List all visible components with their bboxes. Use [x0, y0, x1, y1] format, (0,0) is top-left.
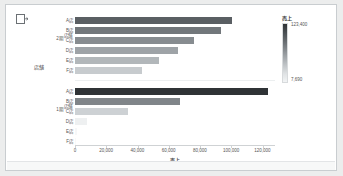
bar-top-0[interactable] — [75, 17, 232, 24]
cat-label-bottom-4: E店 — [60, 128, 73, 135]
cat-label-top-3: D店 — [60, 47, 73, 54]
legend-color-ramp[interactable] — [282, 23, 288, 83]
legend-max-value: 123,400 — [291, 22, 307, 27]
bar-bottom-2[interactable] — [75, 108, 128, 115]
bar-top-1[interactable] — [75, 27, 221, 34]
bar-top-2[interactable] — [75, 37, 194, 44]
bar-bottom-5[interactable] — [75, 138, 76, 145]
y-axis-title: 店舗 — [34, 64, 44, 70]
color-legend: 売上 123,400 7,690 — [279, 14, 334, 86]
card-footer — [7, 161, 335, 170]
x-tick-label-5: 100,000 — [216, 148, 246, 153]
cat-label-bottom-0: A店 — [60, 88, 73, 95]
bar-bottom-3[interactable] — [75, 118, 87, 125]
x-tick-label-6: 120,000 — [248, 148, 278, 153]
x-tick-label-4: 80,000 — [185, 148, 215, 153]
cat-label-top-1: B店 — [60, 27, 73, 34]
cat-label-bottom-3: D店 — [60, 118, 73, 125]
cat-label-top-2: C店 — [60, 37, 73, 44]
bar-bottom-4[interactable] — [75, 128, 77, 135]
y-axis-title-char: 店舗 — [34, 64, 44, 70]
cat-label-bottom-5: F店 — [60, 138, 73, 145]
x-tick-label-3: 60,000 — [154, 148, 184, 153]
legend-title: 売上 — [282, 14, 334, 21]
cat-label-top-5: F店 — [60, 67, 73, 74]
x-tick-label-2: 40,000 — [123, 148, 153, 153]
x-tick-label-0: 0 — [60, 148, 90, 153]
x-axis-line — [75, 145, 275, 146]
bar-top-4[interactable] — [75, 57, 159, 64]
bar-top-5[interactable] — [75, 67, 142, 74]
cat-label-top-0: A店 — [60, 17, 73, 24]
cat-label-bottom-1: B店 — [60, 98, 73, 105]
cat-label-top-4: E店 — [60, 57, 73, 64]
bar-top-3[interactable] — [75, 47, 178, 54]
x-tick-label-1: 20,000 — [91, 148, 121, 153]
bar-bottom-0[interactable] — [75, 88, 268, 95]
pane-separator — [75, 80, 275, 81]
viz-card: 店舗 2期 店舗 1期 店舗 A店 B店 C店 D店 E店 F店 — [5, 4, 337, 171]
bar-bottom-1[interactable] — [75, 98, 180, 105]
cat-label-bottom-2: C店 — [60, 108, 73, 115]
legend-min-value: 7,690 — [291, 77, 302, 82]
viz-canvas: 店舗 2期 店舗 1期 店舗 A店 B店 C店 D店 E店 F店 — [7, 6, 335, 162]
